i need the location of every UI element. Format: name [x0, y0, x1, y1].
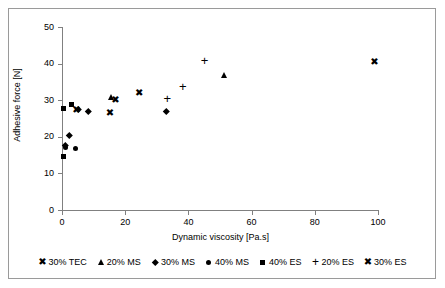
data-point: [73, 146, 78, 151]
legend-marker-shape: [260, 260, 265, 265]
x-tick-mark: [62, 211, 63, 215]
x-tick-mark: [378, 211, 379, 215]
legend-item[interactable]: 30% MS: [150, 257, 195, 267]
data-point: [69, 102, 74, 107]
data-point: [108, 94, 114, 100]
legend-item-label: 40% MS: [215, 257, 249, 267]
data-point: +: [176, 80, 190, 93]
data-point: ✖: [132, 88, 146, 98]
y-tick-label: 0: [10, 206, 54, 215]
chart-legend: ✖30% TEC20% MS30% MS40% MS40% ES+20% ES✖…: [12, 253, 432, 271]
legend-marker-square-icon: [258, 257, 268, 267]
legend-item[interactable]: ✖30% TEC: [38, 257, 87, 267]
data-point: [221, 72, 227, 78]
data-point: [61, 106, 66, 111]
plot-area: ✖✖✖✖+++✖: [62, 27, 378, 210]
legend-item[interactable]: 40% ES: [258, 257, 302, 267]
legend-marker-shape: ✖: [38, 257, 46, 267]
data-point: [85, 108, 91, 114]
y-tick-label-wrap: 50: [0, 23, 54, 32]
legend-item-label: 20% ES: [321, 257, 354, 267]
data-point: ✖: [103, 108, 117, 118]
x-tick-label: 60: [232, 217, 272, 227]
data-point: [66, 132, 72, 138]
figure-root: 50403020100 020406080100 Adhesive force …: [0, 0, 445, 288]
legend-marker-circle-icon: [204, 257, 214, 267]
data-point: +: [160, 92, 174, 105]
legend-marker-shape: [98, 259, 104, 265]
data-point: ✖: [368, 57, 382, 67]
legend-marker-plus-icon: +: [310, 257, 320, 267]
x-tick-mark: [315, 211, 316, 215]
x-tick-label: 40: [168, 217, 208, 227]
legend-marker-shape: [206, 260, 211, 265]
x-tick-mark: [188, 211, 189, 215]
x-axis-line: [62, 210, 379, 211]
x-tick-label: 20: [105, 217, 145, 227]
data-point: +: [198, 54, 212, 67]
legend-marker-diamond-icon: [150, 257, 160, 267]
data-point: [61, 154, 66, 159]
legend-item[interactable]: 40% MS: [204, 257, 249, 267]
y-axis-title-holder: Adhesive force [N]: [0, 40, 20, 170]
legend-item-label: 30% MS: [161, 257, 195, 267]
y-tick-label-wrap: 10: [0, 169, 54, 178]
data-point: [163, 108, 169, 114]
x-tick-mark: [252, 211, 253, 215]
legend-item-label: 20% MS: [107, 257, 141, 267]
legend-item[interactable]: 20% MS: [96, 257, 141, 267]
legend-marker-x-icon: ✖: [38, 257, 48, 267]
legend-marker-shape: +: [312, 257, 319, 267]
legend-item[interactable]: ✖30% ES: [363, 257, 407, 267]
x-tick-label: 100: [358, 217, 398, 227]
x-tick-mark: [125, 211, 126, 215]
legend-item[interactable]: +20% ES: [310, 257, 354, 267]
data-point: [63, 145, 68, 150]
legend-marker-shape: ✖: [364, 257, 372, 267]
x-tick-label: 0: [42, 217, 82, 227]
x-axis-title: Dynamic viscosity [Pa.s]: [62, 232, 379, 242]
legend-item-label: 40% ES: [269, 257, 302, 267]
legend-marker-x-icon: ✖: [363, 257, 373, 267]
y-tick-label: 50: [10, 23, 54, 32]
legend-marker-shape: [152, 259, 158, 265]
y-tick-label-wrap: 0: [0, 206, 54, 215]
legend-item-label: 30% ES: [374, 257, 407, 267]
y-axis-title: Adhesive force [N]: [12, 40, 22, 170]
legend-marker-triangle-icon: [96, 257, 106, 267]
y-tick-label: 10: [10, 169, 54, 178]
x-tick-label: 80: [295, 217, 335, 227]
legend-item-label: 30% TEC: [49, 257, 87, 267]
